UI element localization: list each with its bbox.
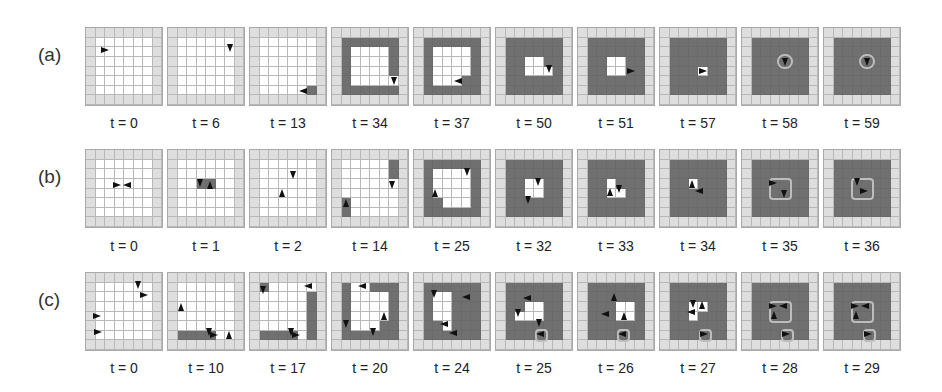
filled-cell [679,321,689,331]
robot-arrow-icon [389,181,395,189]
empty-cell [187,179,197,189]
empty-cell [288,179,298,189]
filled-cell [443,160,453,170]
border-cell [342,28,352,38]
filled-cell [370,38,380,48]
filled-cell [635,57,645,67]
empty-cell [288,312,298,322]
border-cell [216,28,226,38]
empty-cell [288,302,298,312]
border-cell [742,198,752,208]
empty-cell [96,283,106,293]
filled-cell [843,331,853,341]
border-cell [563,198,573,208]
border-cell [250,292,260,302]
filled-cell [307,292,317,302]
filled-cell [515,76,525,86]
empty-cell [96,160,106,170]
border-cell [250,208,260,218]
border-cell [771,217,781,227]
filled-cell [197,331,207,341]
filled-cell [670,331,680,341]
filled-cell [588,76,598,86]
grid-panel [413,27,491,106]
empty-cell [351,312,361,322]
filled-cell [780,76,790,86]
filled-cell [799,292,809,302]
filled-cell [424,198,434,208]
filled-cell [834,67,844,77]
border-cell [891,28,901,38]
border-cell [645,160,655,170]
filled-cell [626,57,636,67]
empty-cell [206,57,216,67]
border-cell [370,340,380,350]
border-cell [317,189,327,199]
filled-cell [607,198,617,208]
border-cell [660,283,670,293]
empty-cell [370,179,380,189]
empty-cell [370,292,380,302]
border-cell [298,340,308,350]
border-cell [462,28,472,38]
border-cell [891,150,901,160]
border-cell [660,86,670,96]
empty-cell [298,189,308,199]
empty-cell [443,47,453,57]
border-cell [361,273,371,283]
filled-cell [515,67,525,77]
filled-cell [761,76,771,86]
empty-cell [187,47,197,57]
border-cell [689,28,699,38]
empty-cell [380,208,390,218]
empty-cell [525,57,535,67]
border-cell [250,198,260,208]
filled-cell [553,189,563,199]
grid-panel [741,27,819,106]
border-cell [799,340,809,350]
border-cell [225,95,235,105]
filled-cell [616,283,626,293]
filled-cell [506,47,516,57]
filled-cell [424,302,434,312]
filled-cell [635,312,645,322]
filled-cell [307,86,317,96]
empty-cell [534,302,544,312]
border-cell [235,86,245,96]
empty-cell [206,198,216,208]
border-cell [389,340,399,350]
grid-panel [331,27,409,106]
empty-cell [462,179,472,189]
border-cell [578,76,588,86]
filled-cell [790,198,800,208]
empty-cell [143,331,153,341]
border-cell [250,57,260,67]
filled-cell [597,169,607,179]
border-cell [471,217,481,227]
filled-cell [506,160,516,170]
border-cell [742,179,752,189]
border-cell [153,302,163,312]
empty-cell [288,189,298,199]
border-cell [235,312,245,322]
empty-cell [269,179,279,189]
border-cell [481,198,491,208]
border-cell [544,28,554,38]
filled-cell [771,38,781,48]
empty-cell [351,179,361,189]
border-cell [771,273,781,283]
empty-cell [216,169,226,179]
filled-cell [544,292,554,302]
empty-cell [105,67,115,77]
filled-cell [679,179,689,189]
border-cell [168,331,178,341]
border-cell [216,273,226,283]
border-cell [317,340,327,350]
border-cell [443,217,453,227]
border-cell [824,86,834,96]
border-cell [553,150,563,160]
filled-cell [506,169,516,179]
border-cell [288,340,298,350]
border-cell [279,28,289,38]
empty-cell [616,67,626,77]
